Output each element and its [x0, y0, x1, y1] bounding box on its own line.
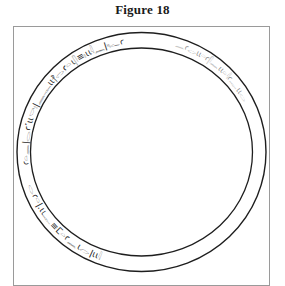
outer-ring-edge: [17, 33, 266, 272]
inner-ring-edge: [31, 48, 253, 256]
inscription-dark: ꜥ𓏏𓈖ǀ𓂋ꜥ˹ιι𓎡𓏤ǀ𓈖𓊃ιι⳨𓂋ꜥ𓏏ι𓋴≡𓏤ιι𓇋𓈖ǀ𓆑ꜥ: [20, 36, 125, 165]
inscription-bottom: 𓂋ꜥ𓏏ǀ.ιι𓊃≡ⵎ𓏏ꜥ𓈖ι𓂋ǀιι𓇋: [26, 182, 104, 261]
